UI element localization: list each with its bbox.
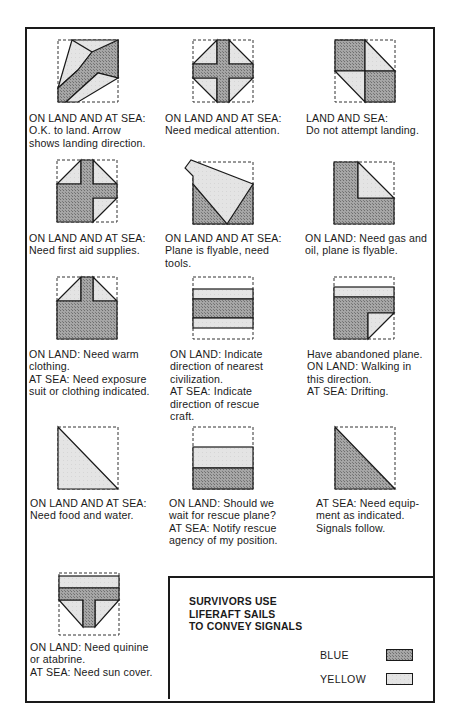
caption-line: AT SEA: Need equip- xyxy=(316,497,419,509)
caption-line: oil, plane is flyable. xyxy=(305,244,427,256)
caption-line: O.K. to land. Arrow xyxy=(29,124,146,136)
caption-line: or atabrine. xyxy=(30,653,153,665)
legend-label-blue: BLUE xyxy=(320,649,349,661)
caption-line: AT SEA: Need exposure xyxy=(29,373,150,385)
legend-title-line: LIFERAFT SAILS xyxy=(189,609,302,622)
caption-food-water: ON LAND AND AT SEA: Need food and water. xyxy=(30,497,147,522)
legend-box: SURVIVORS USE LIFERAFT SAILS TO CONVEY S… xyxy=(168,576,433,699)
caption-line: Do not attempt landing. xyxy=(306,124,419,136)
caption-line: ON LAND: Need warm xyxy=(29,348,150,360)
caption-line: ON LAND AND AT SEA: xyxy=(165,232,282,244)
direction-stripes-icon xyxy=(193,277,253,339)
caption-line: ment as indicated. xyxy=(316,509,419,521)
caption-line: ON LAND: Walking in xyxy=(307,360,423,372)
caption-medical-attention: ON LAND AND AT SEA: Need medical attenti… xyxy=(165,112,282,137)
caption-abandoned-plane: Have abandoned plane. ON LAND: Walking i… xyxy=(307,348,423,398)
caption-ok-to-land: ON LAND AND AT SEA: O.K. to land. Arrow … xyxy=(29,112,146,149)
caption-line: clothing. xyxy=(29,360,150,372)
caption-line: ON LAND AND AT SEA: xyxy=(165,112,282,124)
caption-line: ON LAND AND AT SEA: xyxy=(30,497,147,509)
caption-need-tools: ON LAND AND AT SEA: Plane is flyable, ne… xyxy=(165,232,282,269)
caption-warm-clothing: ON LAND: Need warm clothing. AT SEA: Nee… xyxy=(29,348,150,398)
caption-line: agency of my position. xyxy=(169,534,278,546)
caption-line: ON LAND: Should we xyxy=(169,497,278,509)
caption-line: this direction. xyxy=(307,373,423,385)
caption-line: Have abandoned plane. xyxy=(307,348,423,360)
do-not-land-checker-icon xyxy=(335,40,395,102)
caption-line: direction of rescue xyxy=(170,398,263,410)
caption-direction: ON LAND: Indicate direction of nearest c… xyxy=(170,348,263,422)
caption-line: Need food and water. xyxy=(30,509,147,521)
ok-to-land-arrow-icon xyxy=(58,40,118,102)
caption-line: shows landing direction. xyxy=(29,137,146,149)
caption-line: AT SEA: Indicate xyxy=(170,385,263,397)
caption-first-aid: ON LAND AND AT SEA: Need first aid suppl… xyxy=(29,232,146,257)
caption-line: ON LAND AND AT SEA: xyxy=(29,112,146,124)
legend-swatch-yellow xyxy=(386,673,413,685)
caption-quinine-sun-cover: ON LAND: Need quinine or atabrine. AT SE… xyxy=(30,641,153,678)
caption-do-not-land: LAND AND SEA: Do not attempt landing. xyxy=(306,112,419,137)
caption-equipment: AT SEA: Need equip- ment as indicated. S… xyxy=(316,497,419,534)
caption-line: wait for rescue plane? xyxy=(169,509,278,521)
legend-title-line: TO CONVEY SIGNALS xyxy=(189,621,302,634)
equipment-triangle-icon xyxy=(335,427,395,489)
caption-gas-and-oil: ON LAND: Need gas and oil, plane is flya… xyxy=(305,232,427,257)
food-water-triangle-icon xyxy=(58,427,118,489)
caption-line: AT SEA: Drifting. xyxy=(307,385,423,397)
caption-wait-or-notify: ON LAND: Should we wait for rescue plane… xyxy=(169,497,278,547)
caption-line: LAND AND SEA: xyxy=(306,112,419,124)
caption-line: ON LAND AND AT SEA: xyxy=(29,232,146,244)
caption-line: tools. xyxy=(165,257,282,269)
caption-line: Plane is flyable, need xyxy=(165,244,282,256)
medical-attention-cross-icon xyxy=(193,40,253,102)
wait-or-notify-stripes-icon xyxy=(193,427,253,489)
caption-line: craft. xyxy=(170,410,263,422)
caption-line: AT SEA: Need sun cover. xyxy=(30,666,153,678)
caption-line: civilization. xyxy=(170,373,263,385)
caption-line: suit or clothing indicated. xyxy=(29,385,150,397)
caption-line: Signals follow. xyxy=(316,522,419,534)
warm-clothing-t-shape-icon xyxy=(57,277,117,339)
caption-line: direction of nearest xyxy=(170,360,263,372)
first-aid-cross-icon xyxy=(57,160,117,222)
caption-line: ON LAND: Need quinine xyxy=(30,641,153,653)
caption-line: ON LAND: Need gas and xyxy=(305,232,427,244)
caption-line: Need medical attention. xyxy=(165,124,282,136)
quinine-sun-cover-icon xyxy=(59,573,119,635)
abandoned-plane-icon xyxy=(334,277,394,339)
legend-label-yellow: YELLOW xyxy=(320,673,366,685)
caption-line: AT SEA: Notify rescue xyxy=(169,522,278,534)
legend-swatch-blue xyxy=(386,649,413,661)
caption-line: ON LAND: Indicate xyxy=(170,348,263,360)
caption-line: Need first aid supplies. xyxy=(29,244,146,256)
need-tools-sail-icon xyxy=(193,162,253,224)
legend-title: SURVIVORS USE LIFERAFT SAILS TO CONVEY S… xyxy=(189,596,302,634)
legend-title-line: SURVIVORS USE xyxy=(189,596,302,609)
gas-and-oil-l-shape-icon xyxy=(334,162,394,224)
